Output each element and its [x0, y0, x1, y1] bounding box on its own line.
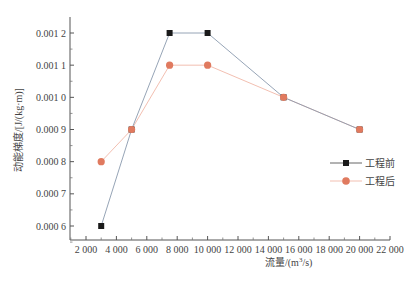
- y-tick-label: 0.001 1: [36, 60, 66, 71]
- x-axis-title-main: 流量/(m: [265, 256, 299, 269]
- data-point-circle: [166, 62, 173, 69]
- series-layer: [98, 30, 364, 229]
- y-tick-label: 0.001 2: [36, 28, 66, 39]
- x-tick-label: 4 000: [105, 244, 128, 255]
- x-tick-label: 10 000: [194, 244, 222, 255]
- x-axis-title: 流量/(m3/s): [265, 256, 312, 269]
- x-tick-label: 6 000: [136, 244, 159, 255]
- y-tick-label: 0.000 7: [36, 188, 66, 199]
- x-tick-label: 16 000: [285, 244, 313, 255]
- axes: 0.000 60.000 70.000 80.000 90.001 00.001…: [36, 17, 404, 255]
- legend-label: 工程后: [365, 176, 395, 187]
- legend-label: 工程前: [365, 157, 395, 169]
- x-tick-label: 22 000: [376, 244, 404, 255]
- y-tick-label: 0.001 0: [36, 92, 66, 103]
- y-tick-label: 0.000 8: [36, 156, 66, 167]
- x-tick-label: 2 000: [75, 244, 98, 255]
- x-tick-label: 12 000: [224, 244, 252, 255]
- y-tick-label: 0.000 6: [36, 221, 66, 232]
- legend-square-marker: [343, 160, 349, 166]
- x-tick-label: 18 000: [315, 244, 343, 255]
- legend-circle-marker: [342, 177, 350, 185]
- x-axis-title-tail: /s): [302, 257, 312, 269]
- y-tick-label: 0.000 9: [36, 124, 66, 135]
- data-point-square: [167, 30, 173, 36]
- data-point-circle: [280, 94, 287, 101]
- x-tick-label: 20 000: [346, 244, 374, 255]
- data-point-square: [205, 30, 211, 36]
- data-point-square: [98, 223, 104, 229]
- series-line: [101, 33, 359, 226]
- y-axis-title: 动能梯度/[J/(kg·m)]: [12, 88, 25, 172]
- x-tick-label: 8 000: [166, 244, 189, 255]
- legend: 工程前工程后: [330, 157, 395, 187]
- data-point-circle: [204, 62, 211, 69]
- x-tick-label: 14 000: [255, 244, 283, 255]
- data-point-circle: [98, 158, 105, 165]
- line-chart: 0.000 60.000 70.000 80.000 90.001 00.001…: [0, 0, 416, 286]
- data-point-circle: [128, 126, 135, 133]
- data-point-circle: [356, 126, 363, 133]
